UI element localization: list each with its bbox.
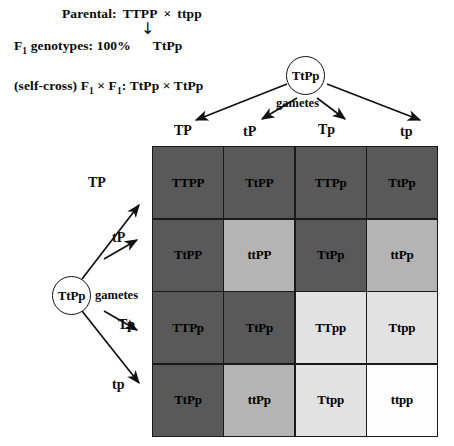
punnett-cell-genotype: TTpp (315, 320, 346, 336)
top-gamete-3: tp (400, 124, 412, 140)
punnett-cell-3-2: Ttpp (296, 365, 366, 436)
left-parent-genotype: TtPp (58, 288, 85, 304)
punnett-cell-1-0: TtPP (153, 220, 223, 291)
punnett-cell-3-3: ttpp (367, 365, 437, 436)
f1-genotypes-line: F1 genotypes: 100%TtPp (14, 38, 182, 56)
punnett-cell-genotype: ttPP (247, 247, 271, 263)
punnett-cell-0-2: TTPp (296, 147, 366, 218)
punnett-cell-genotype: TtPP (174, 247, 202, 263)
punnett-cell-genotype: TTPP (172, 175, 204, 191)
punnett-cell-genotype: TTPp (172, 320, 204, 336)
punnett-cell-genotype: TtPp (246, 320, 273, 336)
punnett-cell-genotype: ttPp (390, 247, 413, 263)
top-parent-genotype-circle: TtPp (286, 56, 325, 95)
top-gametes-label: gametes (276, 96, 319, 111)
self-cross-prefix: (self-cross) F (14, 78, 89, 93)
down-arrow-icon: ↓ (141, 21, 154, 37)
punnett-cell-genotype: ttPp (248, 392, 271, 408)
punnett-cell-1-2: TtPp (296, 220, 366, 291)
punnett-cell-genotype: TtPP (245, 175, 273, 191)
cross-symbol: × (164, 6, 172, 21)
top-gamete-2: Tp (318, 122, 335, 138)
self-cross-colon: : TtPp × TtPp (122, 78, 204, 93)
parental-genotype-2: ttpp (177, 6, 201, 21)
punnett-cell-0-3: TtPp (367, 147, 437, 218)
left-gamete-1: tP (112, 230, 125, 246)
f1-label-rest: genotypes: 100% (27, 38, 131, 53)
punnett-cell-3-1: ttPp (224, 365, 294, 436)
top-parent-genotype: TtPp (292, 68, 319, 84)
left-gamete-0: TP (88, 175, 106, 191)
punnett-cell-3-0: TtPp (153, 365, 223, 436)
left-gamete-3: tp (112, 377, 124, 393)
left-gamete-2: Tp (118, 317, 135, 333)
punnett-cell-genotype: TtPp (174, 392, 201, 408)
punnett-cell-genotype: ttpp (391, 392, 413, 408)
punnett-cell-0-1: TtPP (224, 147, 294, 218)
top-gamete-1: tP (243, 124, 256, 140)
punnett-cell-2-0: TTPp (153, 292, 223, 363)
punnett-cell-1-1: ttPP (224, 220, 294, 291)
punnett-cell-genotype: TTPp (315, 175, 347, 191)
punnett-cell-genotype: TtPp (317, 247, 344, 263)
parental-cross-line: Parental:TTPP×ttpp (62, 6, 202, 22)
punnett-cell-0-0: TTPP (153, 147, 223, 218)
punnett-cell-genotype: Ttpp (389, 320, 416, 336)
punnett-cell-genotype: TtPp (388, 175, 415, 191)
punnett-cell-1-3: ttPp (367, 220, 437, 291)
left-gametes-label: gametes (95, 288, 138, 303)
punnett-cell-2-2: TTpp (296, 292, 366, 363)
f1-genotype: TtPp (153, 38, 183, 53)
parental-label: Parental: (62, 6, 117, 21)
self-cross-times: × F (94, 78, 117, 93)
self-cross-line: (self-cross) F1 × F1: TtPp × TtPp (14, 78, 203, 96)
punnett-cell-2-3: Ttpp (367, 292, 437, 363)
punnett-cell-2-1: TtPp (224, 292, 294, 363)
punnett-square-grid: TTPPTtPPTTPpTtPpTtPPttPPTtPpttPpTTPpTtPp… (152, 146, 438, 437)
top-gamete-0: TP (174, 123, 192, 139)
left-parent-genotype-circle: TtPp (52, 276, 91, 315)
punnett-square-figure: Parental:TTPP×ttpp ↓ F1 genotypes: 100%T… (0, 0, 454, 446)
punnett-cell-genotype: Ttpp (317, 392, 344, 408)
